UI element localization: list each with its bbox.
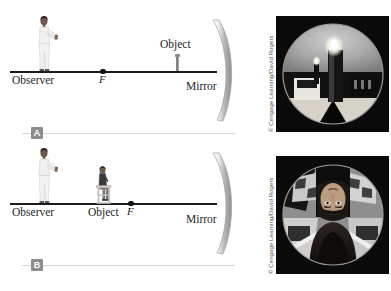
object-figure-seated-b	[92, 165, 122, 204]
focal-point-label-b: F	[127, 205, 134, 217]
observer-label-a: Observer	[12, 74, 54, 86]
photo-candle-concave-mirror	[276, 16, 389, 132]
panel-a-rule	[22, 133, 235, 134]
observer-figure-b	[33, 146, 63, 204]
panel-a: F Object Observer Mirror	[0, 0, 262, 145]
panel-b-rule	[22, 265, 235, 266]
photo-credit-b: © Cengage Learning/David Rogers	[268, 177, 274, 274]
panel-b: F Observer	[0, 145, 262, 291]
mirror-label-a: Mirror	[186, 80, 217, 92]
focal-point-label-a: F	[99, 73, 106, 85]
object-label-a: Object	[160, 38, 191, 50]
panel-b-badge: B	[31, 259, 43, 271]
mirror-label-b: Mirror	[186, 213, 217, 225]
photo-face-concave-mirror	[276, 156, 389, 274]
physics-figure: F Object Observer Mirror	[0, 0, 391, 291]
photo-credit-a: © Cengage Learning/David Rogers	[268, 35, 274, 132]
observer-figure-a	[33, 14, 63, 72]
concave-mirror-a	[200, 18, 240, 123]
observer-label-b: Observer	[12, 206, 54, 218]
object-label-b: Object	[88, 206, 119, 218]
object-arrow-a	[176, 56, 179, 71]
concave-mirror-b	[200, 151, 240, 256]
panel-a-badge: A	[31, 127, 43, 139]
